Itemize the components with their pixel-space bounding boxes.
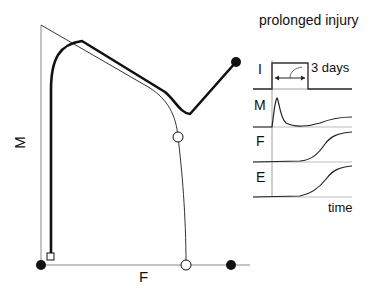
open-circle-marker-axis xyxy=(181,260,191,270)
F-trace xyxy=(253,132,352,162)
panel-title: prolonged injury xyxy=(259,12,359,28)
duration-arrow-head-left xyxy=(275,76,279,81)
E-trace xyxy=(253,166,352,197)
fibrosis-dot-marker xyxy=(226,260,236,270)
M-trace xyxy=(253,98,352,127)
trace-label-F: F xyxy=(256,133,265,149)
time-axis-label: time xyxy=(328,200,353,215)
diagram-canvas xyxy=(0,0,374,290)
trace-label-E: E xyxy=(256,169,265,185)
thick-end-dot-marker xyxy=(231,57,241,67)
start-square-marker xyxy=(47,253,54,260)
duration-arc xyxy=(290,67,302,78)
duration-label: 3 days xyxy=(311,60,349,75)
origin-dot-marker xyxy=(36,260,46,270)
open-circle-marker-curve xyxy=(173,132,183,142)
trace-label-M: M xyxy=(254,97,266,113)
x-axis-label: F xyxy=(139,268,148,285)
trace-label-I: I xyxy=(258,61,262,77)
y-axis-label: M xyxy=(11,136,28,149)
duration-arrow-head-right xyxy=(301,76,305,81)
thick-trajectory-curve xyxy=(51,41,236,257)
